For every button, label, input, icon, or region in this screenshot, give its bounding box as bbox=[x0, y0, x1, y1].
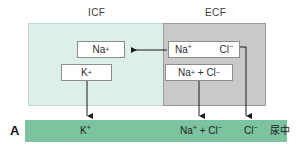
icf-potassium-symbol: K bbox=[81, 68, 88, 78]
urine-nacl-left-symbol: Na bbox=[180, 125, 193, 136]
urine-nacl-right-symbol: Cl bbox=[208, 125, 217, 136]
ecf-sodium-term: Na+ bbox=[175, 45, 192, 55]
urine-note-label: 尿中 bbox=[270, 126, 290, 136]
ecf-sodium-charge: + bbox=[188, 42, 192, 49]
icf-potassium-box: K+ bbox=[61, 64, 112, 81]
ecf-sodium-chloride-box: Na+ Cl− bbox=[168, 41, 240, 58]
ecf-compartment-label: ECF bbox=[205, 7, 226, 18]
ecf-chloride-charge: − bbox=[229, 42, 233, 49]
urine-sodium-chloride-label: Na+ + Cl− bbox=[180, 126, 222, 136]
urine-chloride-label: Cl− bbox=[244, 126, 258, 136]
ecf-chloride-symbol: Cl bbox=[219, 44, 228, 55]
ecf-sodium-symbol: Na bbox=[175, 44, 188, 55]
urine-potassium-label: K+ bbox=[80, 126, 91, 136]
ecf-sum-operator: + bbox=[198, 68, 204, 78]
icf-compartment-label: ICF bbox=[88, 7, 105, 18]
panel-letter: A bbox=[10, 124, 19, 137]
figure-panel-a: ICF ECF Na+ K+ Na+ Cl− Na+ + Cl− bbox=[0, 0, 303, 151]
icf-sodium-symbol: Na bbox=[93, 45, 106, 55]
urine-nacl-operator: + bbox=[200, 125, 206, 136]
ecf-sum-right-symbol: Cl bbox=[206, 68, 215, 78]
urine-nacl-left-charge: + bbox=[193, 124, 197, 131]
ecf-chloride-term: Cl− bbox=[219, 45, 233, 55]
ecf-sodium-plus-chloride-box: Na+ + Cl− bbox=[165, 64, 233, 81]
urine-chloride-charge: − bbox=[253, 124, 257, 131]
urine-nacl-right-charge: − bbox=[218, 124, 222, 131]
urine-potassium-symbol: K bbox=[80, 125, 87, 136]
urine-potassium-charge: + bbox=[87, 124, 91, 131]
ecf-sum-left-symbol: Na bbox=[178, 68, 191, 78]
icf-sodium-box: Na+ bbox=[77, 41, 125, 58]
